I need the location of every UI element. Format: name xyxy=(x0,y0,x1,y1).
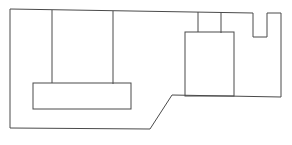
floor-plan-diagram xyxy=(0,0,292,145)
outer-boundary xyxy=(10,9,281,129)
lower-left-rectangle xyxy=(33,83,131,109)
right-rectangle xyxy=(185,32,234,96)
left-vertical-lines xyxy=(52,10,113,84)
right-top-lines xyxy=(198,12,221,33)
